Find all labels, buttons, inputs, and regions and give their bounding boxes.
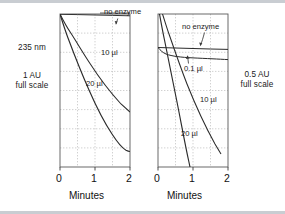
right-xaxis-title: Minutes bbox=[167, 190, 202, 201]
right-xtick-2: 2 bbox=[224, 172, 230, 184]
left-scale-line2: full scale bbox=[6, 81, 58, 92]
figure-root: 235 nm 1 AU full scale 0.5 AU full scale… bbox=[0, 0, 285, 214]
left-10ul-label: 10 µl bbox=[101, 48, 118, 57]
left-xtick-2: 2 bbox=[126, 172, 132, 184]
right-10ul-label: 10 µl bbox=[200, 95, 217, 104]
right-xtick-0: 0 bbox=[154, 172, 160, 184]
right-20ul-label: 20 µl bbox=[181, 129, 198, 138]
right-0p1ul-label: 0.1 µl bbox=[184, 64, 203, 73]
left-xtick-0: 0 bbox=[56, 172, 62, 184]
right-scale-line1: 0.5 AU bbox=[231, 70, 283, 81]
plots-svg bbox=[0, 0, 285, 214]
left-axis-ticks bbox=[60, 167, 130, 171]
right-axis-ticks bbox=[158, 167, 228, 171]
left-scale-line1: 1 AU bbox=[6, 71, 58, 82]
right-no-enzyme-leader bbox=[199, 33, 204, 47]
right-0p1ul-leader bbox=[186, 55, 190, 63]
right-panel-grid bbox=[158, 14, 228, 167]
right-no-enzyme-label: no enzyme bbox=[182, 22, 219, 31]
left-20ul-label: 20 µl bbox=[86, 79, 103, 88]
left-no-enzyme-label: no enzyme bbox=[104, 7, 141, 16]
left-xtick-1: 1 bbox=[91, 172, 97, 184]
right-xtick-1: 1 bbox=[189, 172, 195, 184]
left-xaxis-title: Minutes bbox=[69, 190, 104, 201]
wavelength-label: 235 nm bbox=[6, 43, 58, 54]
right-scale-line2: full scale bbox=[231, 80, 283, 91]
